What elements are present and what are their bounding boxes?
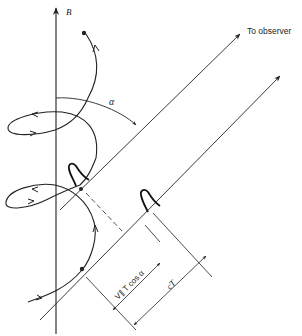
observer-label: To observer xyxy=(247,26,292,36)
emission-point xyxy=(79,187,83,191)
field-label: B xyxy=(66,7,72,17)
end-point xyxy=(82,31,86,35)
angle-label: α xyxy=(109,96,115,107)
helix-trajectory xyxy=(6,34,97,302)
upper-sight-line xyxy=(60,34,240,210)
dashed-projection xyxy=(86,193,122,231)
long-dimension-label: cT xyxy=(164,277,178,291)
dimension-line-short xyxy=(113,263,160,310)
dimension-extension-lines xyxy=(86,213,212,330)
start-point xyxy=(80,267,84,271)
helix-direction-arrows xyxy=(28,45,99,300)
angle-arc xyxy=(56,98,136,125)
short-dimension-label: V∥ T cos α xyxy=(113,268,146,301)
helical-radiation-diagram: B To observer α xyxy=(0,0,302,336)
